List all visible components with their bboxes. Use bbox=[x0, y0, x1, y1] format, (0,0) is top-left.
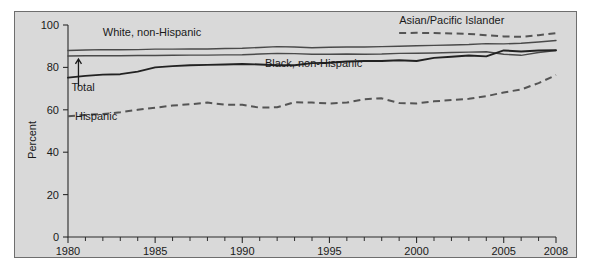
y-axis-tick-labels: 020406080100 bbox=[41, 19, 59, 243]
series-label-asian-pacific-islander: Asian/Pacific Islander bbox=[399, 14, 504, 26]
series-label-black-non-hispanic: Black, non-Hispanic bbox=[265, 57, 363, 69]
chart-figure: 020406080100 198019851990199520002005200… bbox=[0, 0, 592, 272]
series-line-white-non-hispanic bbox=[68, 40, 556, 50]
y-tick-label: 0 bbox=[53, 231, 59, 243]
y-tick-label: 60 bbox=[47, 104, 59, 116]
series-label-total: Total bbox=[71, 81, 94, 93]
y-axis-ticks bbox=[63, 25, 68, 237]
series-label-white-non-hispanic: White, non-Hispanic bbox=[103, 26, 202, 38]
y-tick-label: 80 bbox=[47, 61, 59, 73]
data-series-group bbox=[68, 33, 556, 116]
x-tick-label: 2008 bbox=[544, 245, 568, 257]
x-tick-label: 2005 bbox=[491, 245, 515, 257]
x-axis-minor-ticks bbox=[85, 237, 538, 241]
chart-plot-svg: 020406080100 198019851990199520002005200… bbox=[0, 0, 592, 272]
series-line-hispanic bbox=[68, 75, 556, 116]
series-labels-group: White, non-HispanicTotalBlack, non-Hispa… bbox=[71, 14, 504, 122]
x-tick-label: 1995 bbox=[317, 245, 341, 257]
series-line-asian-pacific-islander bbox=[399, 33, 556, 37]
x-tick-label: 1985 bbox=[143, 245, 167, 257]
y-tick-label: 100 bbox=[41, 19, 59, 31]
y-tick-label: 20 bbox=[47, 189, 59, 201]
series-label-hispanic: Hispanic bbox=[75, 110, 118, 122]
series-line-total bbox=[68, 50, 556, 56]
x-tick-label: 2000 bbox=[404, 245, 428, 257]
x-tick-label: 1990 bbox=[230, 245, 254, 257]
x-tick-label: 1980 bbox=[56, 245, 80, 257]
y-axis-title: Percent bbox=[26, 121, 38, 159]
x-axis-tick-labels: 1980198519901995200020052008 bbox=[56, 245, 568, 257]
y-tick-label: 40 bbox=[47, 146, 59, 158]
